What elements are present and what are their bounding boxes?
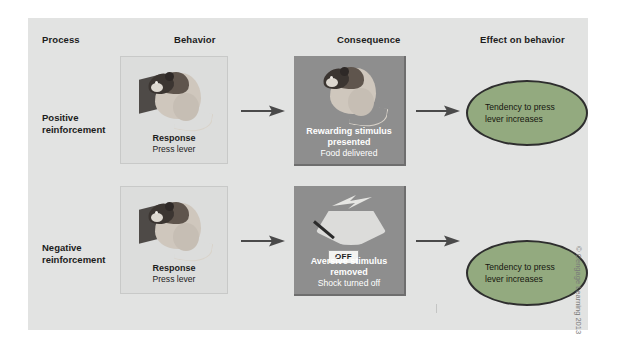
behavior-title-row-1: Response	[121, 133, 227, 144]
rat-cheek-shape	[151, 83, 163, 92]
behavior-title-row-2: Response	[121, 263, 227, 274]
operant-conditioning-figure: Process Behavior Consequence Effect on b…	[28, 18, 588, 330]
rat-tail-shape	[174, 239, 214, 265]
rat-with-food-icon	[314, 66, 388, 128]
effect-oval-row-1: Tendency to press lever increases	[466, 80, 588, 146]
behavior-subtitle-row-1: Press lever	[121, 144, 227, 155]
column-header-consequence: Consequence	[337, 34, 400, 45]
rat-cheek-shape	[326, 78, 338, 87]
arrow-consequence-to-effect-row-2	[416, 235, 460, 247]
column-header-behavior: Behavior	[174, 34, 215, 45]
rat-cheek-shape	[151, 213, 163, 222]
behavior-caption-row-2: Response Press lever	[121, 263, 227, 285]
stray-tick-mark	[436, 304, 437, 313]
shock-apparatus-graphic: OFF	[308, 194, 392, 260]
consequence-subtitle-row-1: Food delivered	[294, 148, 404, 159]
rat-pressing-lever-icon	[139, 201, 213, 263]
behavior-subtitle-row-2: Press lever	[121, 274, 227, 285]
shock-grid-fan-shape	[316, 211, 386, 245]
rat-eye-shape	[330, 76, 333, 79]
consequence-subtitle-row-2: Shock turned off	[294, 278, 404, 289]
rat-ear-shape	[165, 72, 174, 81]
rat-ear-shape	[165, 202, 174, 211]
consequence-title-line1-row-1: Rewarding stimulus	[294, 126, 404, 137]
column-header-process: Process	[42, 34, 80, 45]
arrow-behavior-to-consequence-row-1	[241, 105, 285, 117]
behavior-caption-row-1: Response Press lever	[121, 133, 227, 155]
consequence-caption-row-1: Rewarding stimulus presented Food delive…	[294, 126, 404, 159]
rat-tail-shape	[174, 109, 214, 135]
column-header-effect: Effect on behavior	[480, 34, 565, 45]
row-label-negative-reinforcement: Negative reinforcement	[42, 242, 122, 266]
lightning-bolt-icon	[330, 194, 374, 210]
consequence-title-line2-row-1: presented	[294, 137, 404, 148]
consequence-title-line2-row-2: removed	[294, 267, 404, 278]
rat-eye-shape	[155, 81, 158, 84]
arrow-behavior-to-consequence-row-2	[241, 235, 285, 247]
consequence-panel-row-1: Rewarding stimulus presented Food delive…	[294, 56, 406, 166]
consequence-title-line1-row-2: Aversive stimulus	[294, 256, 404, 267]
row-label-positive-reinforcement: Positive reinforcement	[42, 112, 122, 136]
copyright-notice: © Cengage Learning 2013	[574, 246, 583, 336]
arrow-consequence-to-effect-row-1	[416, 105, 460, 117]
behavior-panel-row-2: Response Press lever	[120, 186, 228, 294]
effect-text-row-2: Tendency to press lever increases	[485, 261, 569, 285]
rat-eye-shape	[155, 211, 158, 214]
consequence-caption-row-2: Aversive stimulus removed Shock turned o…	[294, 256, 404, 289]
rat-pressing-lever-icon	[139, 71, 213, 133]
effect-oval-row-2: Tendency to press lever increases	[466, 240, 588, 306]
behavior-panel-row-1: Response Press lever	[120, 56, 228, 164]
effect-text-row-1: Tendency to press lever increases	[485, 101, 569, 125]
consequence-panel-row-2: OFF Aversive stimulus removed Shock turn…	[294, 186, 406, 296]
rat-ear-shape	[340, 67, 349, 76]
